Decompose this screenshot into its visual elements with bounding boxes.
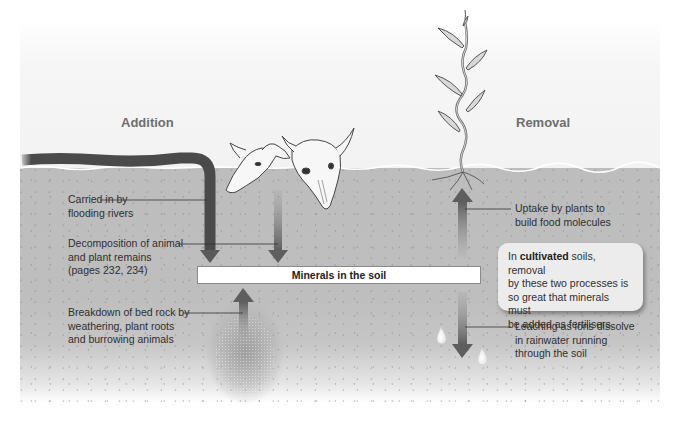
note-line: Decomposition of animal — [68, 237, 183, 251]
decomposition-arrow — [268, 190, 288, 263]
note-decomposition: Decomposition of animal and plant remain… — [68, 237, 183, 278]
note-line: and burrowing animals — [68, 333, 189, 347]
note-rivers: Carried in by flooding rivers — [68, 193, 133, 220]
callout-line: by these two processes is — [508, 277, 633, 291]
callout-bold-term: cultivated — [520, 250, 569, 262]
addition-heading: Addition — [121, 115, 174, 130]
note-line: build food molecules — [515, 216, 611, 230]
note-line: flooding rivers — [68, 207, 133, 221]
note-bedrock: Breakdown of bed rock by weathering, pla… — [68, 306, 189, 347]
callout-line: be added as fertilisers. — [508, 318, 633, 332]
callout-line: In cultivated soils, removal — [508, 250, 633, 277]
note-line: through the soil — [515, 347, 635, 361]
note-uptake: Uptake by plants to build food molecules — [515, 202, 611, 229]
note-line: Breakdown of bed rock by — [68, 306, 189, 320]
note-line: and plant remains — [68, 251, 183, 265]
note-line: weathering, plant roots — [68, 320, 189, 334]
note-line: (pages 232, 234) — [68, 264, 183, 278]
cultivated-soils-callout: In cultivated soils, removal by these tw… — [498, 243, 643, 311]
leaching-arrow — [452, 292, 473, 358]
mineral-cycle-diagram: Addition Removal Carried in by flooding … — [0, 0, 675, 422]
callout-line: so great that minerals must — [508, 291, 633, 318]
uptake-arrow — [452, 188, 473, 258]
note-line: Carried in by — [68, 193, 133, 207]
callout-prefix: In — [508, 250, 520, 262]
plant-icon — [432, 10, 487, 190]
note-line: Uptake by plants to — [515, 202, 611, 216]
note-line: in rainwater running — [515, 334, 635, 348]
removal-heading: Removal — [516, 115, 570, 130]
minerals-in-soil-box: Minerals in the soil — [197, 266, 481, 284]
